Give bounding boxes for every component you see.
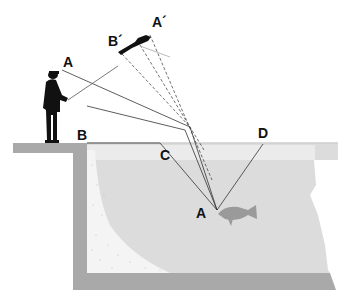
label-b-ledge: B <box>77 127 87 143</box>
fisherman-silhouette <box>43 71 68 143</box>
label-c: C <box>160 147 170 163</box>
label-a-fish: A <box>196 205 206 221</box>
fishing-rod <box>68 66 118 100</box>
refraction-diagram: A B A´ B´ C D A <box>0 0 345 297</box>
label-b-prime: B´ <box>108 33 123 49</box>
label-a-prime: A´ <box>152 14 167 30</box>
label-d: D <box>258 125 268 141</box>
label-a-top: A <box>63 54 73 70</box>
water-surface-band <box>87 145 315 160</box>
angler-image-raised <box>118 35 151 55</box>
rod-reflection-line <box>140 46 170 57</box>
